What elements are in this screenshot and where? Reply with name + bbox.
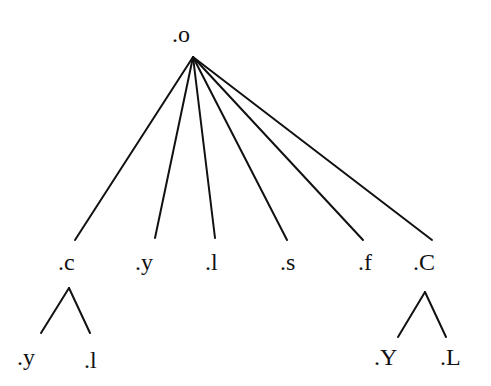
edge-root-to-child-0 bbox=[75, 57, 193, 240]
edge-subtree-0-0 bbox=[41, 288, 69, 333]
edge-root-to-child-1 bbox=[155, 57, 193, 238]
grandchild-node-l: .l bbox=[84, 348, 97, 372]
grandchild-node-L: .L bbox=[440, 345, 461, 369]
grandchild-node-Y: .Y bbox=[374, 345, 397, 369]
child-node-y: .y bbox=[135, 250, 153, 274]
child-node-C: .C bbox=[413, 250, 435, 274]
edge-root-to-child-2 bbox=[193, 57, 215, 238]
tree-edges bbox=[0, 0, 491, 386]
edge-root-to-child-3 bbox=[193, 57, 287, 240]
child-node-c: .c bbox=[58, 250, 75, 274]
root-node-o: .o bbox=[172, 22, 190, 46]
grandchild-node-y: .y bbox=[17, 345, 35, 369]
child-node-s: .s bbox=[280, 250, 295, 274]
edge-root-to-child-5 bbox=[193, 57, 432, 240]
edge-subtree-1-0 bbox=[398, 292, 425, 337]
tree-diagram: .o .c .y .l .s .f .C .y .l .Y .L bbox=[0, 0, 491, 386]
edge-subtree-1-1 bbox=[425, 292, 446, 337]
edge-root-to-child-4 bbox=[193, 57, 363, 240]
child-node-f: .f bbox=[358, 250, 372, 274]
child-node-l: .l bbox=[205, 250, 218, 274]
edge-subtree-0-1 bbox=[69, 288, 90, 333]
